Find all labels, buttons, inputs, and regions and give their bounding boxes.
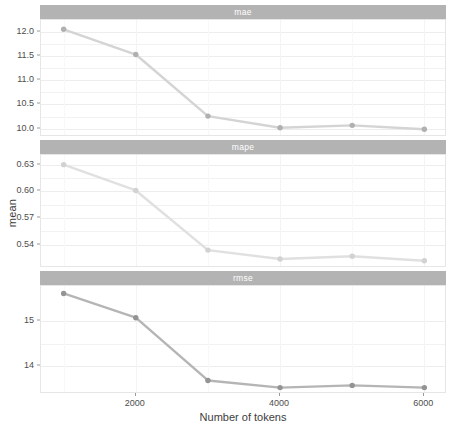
plot-area-mape [40, 154, 446, 267]
data-point [422, 127, 427, 132]
facet-strip-label: mape [232, 143, 254, 152]
y-tick-label: 0.63 [16, 159, 34, 169]
series-mape [41, 155, 446, 267]
x-tick-mark [423, 393, 424, 396]
data-point [277, 125, 282, 130]
y-tick-mark [37, 103, 40, 104]
data-point [350, 383, 355, 388]
data-point [133, 315, 138, 320]
y-tick-label: 14 [24, 360, 34, 370]
y-tick-label: 11.0 [17, 74, 34, 84]
series-mae [41, 20, 446, 136]
facet-strip-mape: mape [40, 140, 446, 154]
facet-strip-rmse: rmse [40, 271, 446, 285]
y-tick-mark [37, 320, 40, 321]
data-point [277, 256, 282, 261]
data-point [422, 258, 427, 263]
series-rmse [41, 286, 446, 393]
series-line [64, 165, 425, 261]
y-tick-label: 15 [24, 315, 34, 325]
data-point [422, 385, 427, 390]
data-point [205, 113, 210, 118]
facet-strip-mae: mae [40, 5, 446, 19]
x-tick-label: 4000 [269, 398, 289, 408]
data-point [205, 378, 210, 383]
y-tick-label: 10.0 [16, 123, 34, 133]
series-line [64, 29, 425, 129]
y-tick-mark [37, 30, 40, 31]
x-axis-title-text: Number of tokens [200, 411, 287, 423]
data-point [277, 385, 282, 390]
y-tick-mark [37, 163, 40, 164]
plot-area-mae [40, 19, 446, 136]
facet-strip-label: mae [234, 8, 251, 17]
y-tick-mark [37, 243, 40, 244]
faceted-line-chart: mean maemapermse Number of tokens 10.010… [0, 0, 450, 426]
y-tick-label: 10.5 [16, 98, 34, 108]
series-line [64, 293, 425, 387]
facet-panel-mae: mae [40, 5, 446, 136]
facet-panel-mape: mape [40, 140, 446, 267]
data-point [133, 52, 138, 57]
x-tick-mark [135, 393, 136, 396]
x-tick-label: 2000 [125, 398, 145, 408]
y-tick-mark [37, 190, 40, 191]
y-tick-label: 11.5 [17, 50, 34, 60]
data-point [350, 123, 355, 128]
facet-strip-label: rmse [233, 274, 253, 283]
facet-panel-rmse: rmse [40, 271, 446, 393]
data-point [61, 291, 66, 296]
data-point [61, 27, 66, 32]
data-point [350, 254, 355, 259]
data-point [133, 188, 138, 193]
plot-area-rmse [40, 285, 446, 393]
y-tick-mark [37, 365, 40, 366]
x-tick-mark [279, 393, 280, 396]
x-tick-label: 6000 [413, 398, 433, 408]
y-tick-label: 12.0 [16, 26, 34, 36]
data-point [61, 162, 66, 167]
y-tick-mark [37, 54, 40, 55]
y-tick-mark [37, 79, 40, 80]
y-tick-label: 0.57 [16, 212, 34, 222]
y-tick-label: 0.60 [16, 185, 34, 195]
y-tick-mark [37, 127, 40, 128]
x-axis-title: Number of tokens [40, 411, 446, 423]
y-tick-label: 0.54 [16, 239, 34, 249]
data-point [205, 247, 210, 252]
y-tick-mark [37, 217, 40, 218]
